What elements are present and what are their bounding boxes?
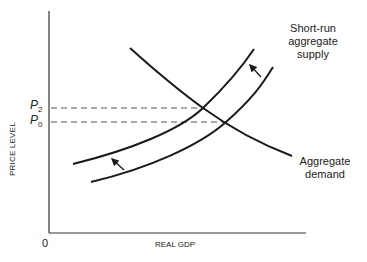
y-axis-label: PRICE LEVEL [8, 122, 17, 176]
sras-label-line2: aggregate [278, 35, 348, 48]
p2-symbol: P [30, 98, 38, 112]
sras-label: Short-run aggregate supply [278, 22, 348, 61]
ad-label-line2: demand [290, 168, 360, 181]
sras-shifted-curve [73, 49, 254, 164]
sras-label-line1: Short-run [278, 22, 348, 35]
shift-arrow-icon [250, 65, 261, 77]
p0-subscript: 0 [38, 120, 42, 129]
shift-arrow-icon [112, 159, 124, 170]
sras-label-line3: supply [278, 48, 348, 61]
p2-label: P2 [30, 98, 42, 114]
ad-label-line1: Aggregate [290, 155, 360, 168]
origin-label: 0 [42, 237, 48, 249]
p0-symbol: P [30, 113, 38, 127]
p0-label: P0 [30, 113, 42, 129]
x-axis-label: REAL GDP [155, 240, 195, 249]
ad-label: Aggregate demand [290, 155, 360, 181]
ad-curve [130, 48, 292, 156]
